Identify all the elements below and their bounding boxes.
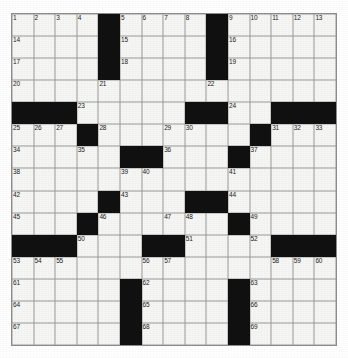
grid-letter-cell[interactable] xyxy=(163,80,185,102)
grid-letter-cell[interactable]: 52 xyxy=(250,235,272,257)
grid-letter-cell[interactable]: 56 xyxy=(142,257,164,279)
grid-letter-cell[interactable]: 14 xyxy=(12,36,34,58)
grid-letter-cell[interactable]: 2 xyxy=(34,14,56,36)
grid-letter-cell[interactable] xyxy=(55,213,77,235)
grid-letter-cell[interactable]: 29 xyxy=(163,124,185,146)
grid-letter-cell[interactable]: 28 xyxy=(98,124,120,146)
grid-letter-cell[interactable] xyxy=(271,168,293,190)
grid-letter-cell[interactable] xyxy=(293,58,315,80)
grid-letter-cell[interactable] xyxy=(250,80,272,102)
grid-letter-cell[interactable] xyxy=(120,235,142,257)
grid-letter-cell[interactable]: 13 xyxy=(314,14,336,36)
grid-letter-cell[interactable] xyxy=(34,58,56,80)
grid-letter-cell[interactable]: 35 xyxy=(77,146,99,168)
grid-letter-cell[interactable] xyxy=(271,191,293,213)
grid-letter-cell[interactable]: 37 xyxy=(250,146,272,168)
grid-letter-cell[interactable] xyxy=(206,213,228,235)
grid-letter-cell[interactable] xyxy=(185,80,207,102)
grid-letter-cell[interactable] xyxy=(98,257,120,279)
grid-letter-cell[interactable]: 45 xyxy=(12,213,34,235)
grid-letter-cell[interactable]: 41 xyxy=(228,168,250,190)
grid-letter-cell[interactable] xyxy=(77,191,99,213)
grid-letter-cell[interactable]: 25 xyxy=(12,124,34,146)
grid-letter-cell[interactable] xyxy=(98,235,120,257)
grid-letter-cell[interactable] xyxy=(228,80,250,102)
grid-letter-cell[interactable] xyxy=(293,168,315,190)
grid-letter-cell[interactable] xyxy=(206,235,228,257)
grid-letter-cell[interactable] xyxy=(77,279,99,301)
grid-letter-cell[interactable] xyxy=(314,279,336,301)
grid-letter-cell[interactable] xyxy=(34,146,56,168)
grid-letter-cell[interactable] xyxy=(293,36,315,58)
grid-letter-cell[interactable] xyxy=(77,80,99,102)
grid-letter-cell[interactable]: 58 xyxy=(271,257,293,279)
grid-letter-cell[interactable] xyxy=(77,323,99,345)
grid-letter-cell[interactable] xyxy=(34,80,56,102)
grid-letter-cell[interactable] xyxy=(34,301,56,323)
grid-letter-cell[interactable] xyxy=(77,301,99,323)
grid-letter-cell[interactable] xyxy=(98,279,120,301)
grid-letter-cell[interactable]: 9 xyxy=(228,14,250,36)
grid-letter-cell[interactable]: 16 xyxy=(228,36,250,58)
grid-letter-cell[interactable] xyxy=(293,191,315,213)
grid-letter-cell[interactable] xyxy=(163,58,185,80)
grid-letter-cell[interactable]: 6 xyxy=(142,14,164,36)
grid-letter-cell[interactable] xyxy=(34,168,56,190)
grid-letter-cell[interactable] xyxy=(314,80,336,102)
grid-letter-cell[interactable] xyxy=(250,102,272,124)
grid-letter-cell[interactable] xyxy=(314,168,336,190)
grid-letter-cell[interactable] xyxy=(185,58,207,80)
grid-letter-cell[interactable] xyxy=(228,257,250,279)
grid-letter-cell[interactable]: 18 xyxy=(120,58,142,80)
grid-letter-cell[interactable]: 46 xyxy=(98,213,120,235)
grid-letter-cell[interactable]: 15 xyxy=(120,36,142,58)
grid-letter-cell[interactable] xyxy=(206,279,228,301)
grid-letter-cell[interactable] xyxy=(98,323,120,345)
grid-letter-cell[interactable]: 12 xyxy=(293,14,315,36)
grid-letter-cell[interactable]: 69 xyxy=(250,323,272,345)
grid-letter-cell[interactable] xyxy=(271,301,293,323)
grid-letter-cell[interactable] xyxy=(55,191,77,213)
grid-letter-cell[interactable]: 66 xyxy=(250,301,272,323)
grid-letter-cell[interactable] xyxy=(77,168,99,190)
grid-letter-cell[interactable] xyxy=(185,301,207,323)
grid-letter-cell[interactable] xyxy=(55,36,77,58)
grid-letter-cell[interactable] xyxy=(34,323,56,345)
grid-letter-cell[interactable]: 51 xyxy=(185,235,207,257)
grid-letter-cell[interactable] xyxy=(185,257,207,279)
grid-letter-cell[interactable] xyxy=(185,36,207,58)
grid-letter-cell[interactable] xyxy=(142,58,164,80)
grid-letter-cell[interactable]: 8 xyxy=(185,14,207,36)
grid-letter-cell[interactable] xyxy=(271,279,293,301)
grid-letter-cell[interactable] xyxy=(34,213,56,235)
grid-letter-cell[interactable]: 64 xyxy=(12,301,34,323)
grid-letter-cell[interactable] xyxy=(314,191,336,213)
grid-letter-cell[interactable]: 26 xyxy=(34,124,56,146)
grid-letter-cell[interactable]: 7 xyxy=(163,14,185,36)
grid-letter-cell[interactable] xyxy=(163,301,185,323)
grid-letter-cell[interactable]: 34 xyxy=(12,146,34,168)
grid-letter-cell[interactable] xyxy=(120,124,142,146)
grid-letter-cell[interactable] xyxy=(142,36,164,58)
grid-letter-cell[interactable] xyxy=(55,146,77,168)
grid-letter-cell[interactable]: 24 xyxy=(228,102,250,124)
grid-letter-cell[interactable] xyxy=(120,80,142,102)
grid-letter-cell[interactable]: 17 xyxy=(12,58,34,80)
grid-letter-cell[interactable] xyxy=(142,80,164,102)
grid-letter-cell[interactable] xyxy=(55,80,77,102)
grid-letter-cell[interactable] xyxy=(293,80,315,102)
grid-letter-cell[interactable] xyxy=(55,58,77,80)
grid-letter-cell[interactable] xyxy=(34,279,56,301)
grid-letter-cell[interactable]: 19 xyxy=(228,58,250,80)
grid-letter-cell[interactable] xyxy=(185,323,207,345)
grid-letter-cell[interactable]: 63 xyxy=(250,279,272,301)
grid-letter-cell[interactable] xyxy=(206,168,228,190)
grid-letter-cell[interactable] xyxy=(314,323,336,345)
grid-letter-cell[interactable]: 4 xyxy=(77,14,99,36)
grid-letter-cell[interactable] xyxy=(250,58,272,80)
grid-letter-cell[interactable]: 20 xyxy=(12,80,34,102)
grid-letter-cell[interactable] xyxy=(250,257,272,279)
grid-letter-cell[interactable]: 21 xyxy=(98,80,120,102)
grid-letter-cell[interactable] xyxy=(271,36,293,58)
grid-letter-cell[interactable] xyxy=(98,168,120,190)
